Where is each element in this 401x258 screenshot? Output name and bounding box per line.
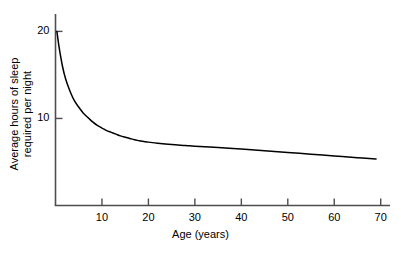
x-tick-label: 10	[82, 212, 122, 223]
x-axis-ticks	[102, 199, 381, 206]
x-tick-label: 70	[361, 212, 401, 223]
axes	[55, 14, 390, 206]
sleep-requirement-chart: 1020 10203040506070 Average hours of sle…	[0, 0, 401, 258]
x-axis-title: Age (years)	[0, 228, 401, 240]
y-axis-title-line-2: required per night	[21, 58, 34, 171]
y-axis-title-line-1: Average hours of sleep	[8, 58, 21, 171]
y-axis-title: Average hours of sleep required per nigh…	[8, 34, 34, 194]
x-tick-label: 40	[221, 212, 261, 223]
series-line-average-hours-of-sleep	[57, 31, 376, 159]
x-tick-label: 20	[128, 212, 168, 223]
x-tick-label: 50	[268, 212, 308, 223]
data-series-group	[57, 31, 376, 159]
x-tick-label: 60	[314, 212, 354, 223]
x-tick-label: 30	[175, 212, 215, 223]
